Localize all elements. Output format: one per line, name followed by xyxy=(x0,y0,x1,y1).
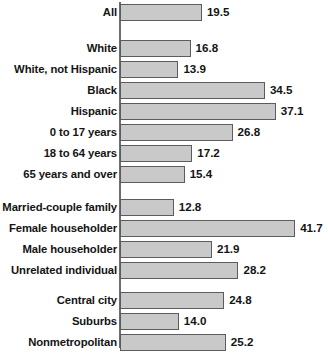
bar-value-label: 15.4 xyxy=(190,164,213,185)
bar-category-label: 0 to 17 years xyxy=(50,122,117,143)
bar-value-label: 14.0 xyxy=(184,311,207,332)
bar xyxy=(120,61,178,78)
bar-category-label: Black xyxy=(87,80,117,101)
bar-wrap xyxy=(120,61,178,78)
bar-value-label: 16.8 xyxy=(196,38,219,59)
bar-row: Nonmetropolitan25.2 xyxy=(0,332,328,353)
bar-category-label: White, not Hispanic xyxy=(14,59,117,80)
bar-row: Married-couple family12.8 xyxy=(0,197,328,218)
bar-category-label: Married-couple family xyxy=(2,197,117,218)
bar xyxy=(120,241,212,258)
bar-category-label: Hispanic xyxy=(71,101,117,122)
bar-value-label: 21.9 xyxy=(217,239,240,260)
bar-category-label: All xyxy=(103,2,117,23)
bar xyxy=(120,40,191,57)
bar-wrap xyxy=(120,292,224,309)
bar-group-total: All19.5 xyxy=(0,2,328,23)
bar xyxy=(120,145,192,162)
bar xyxy=(120,103,276,120)
bar-row: All19.5 xyxy=(0,2,328,23)
bar xyxy=(120,199,174,216)
bar-category-label: White xyxy=(87,38,117,59)
bar-value-label: 34.5 xyxy=(270,80,293,101)
bar-value-label: 28.2 xyxy=(243,260,266,281)
bar-value-label: 25.2 xyxy=(231,332,254,353)
bar-row: Unrelated individual28.2 xyxy=(0,260,328,281)
bar-wrap xyxy=(120,40,191,57)
bar-wrap xyxy=(120,220,295,237)
bar-row: Hispanic37.1 xyxy=(0,101,328,122)
bar-value-label: 13.9 xyxy=(183,59,206,80)
bar-row: Suburbs14.0 xyxy=(0,311,328,332)
bar xyxy=(120,82,265,99)
bar xyxy=(120,313,179,330)
bar xyxy=(120,262,238,279)
bar-group-age: 0 to 17 years26.818 to 64 years17.265 ye… xyxy=(0,122,328,185)
bar-value-label: 17.2 xyxy=(197,143,220,164)
bar xyxy=(120,4,202,21)
bar-category-label: Female householder xyxy=(9,218,117,239)
bar-row: Female householder41.7 xyxy=(0,218,328,239)
bar xyxy=(120,292,224,309)
bar-row: 65 years and over15.4 xyxy=(0,164,328,185)
bar-wrap xyxy=(120,145,192,162)
bar-group-residence: Central city24.8Suburbs14.0Nonmetropolit… xyxy=(0,290,328,353)
bar-wrap xyxy=(120,166,185,183)
bar-row: 18 to 64 years17.2 xyxy=(0,143,328,164)
bar-category-label: Suburbs xyxy=(72,311,117,332)
bar-wrap xyxy=(120,262,238,279)
bar-row: White16.8 xyxy=(0,38,328,59)
bar-wrap xyxy=(120,103,276,120)
bar-row: Central city24.8 xyxy=(0,290,328,311)
bar xyxy=(120,166,185,183)
bar xyxy=(120,334,226,351)
bar-value-label: 24.8 xyxy=(229,290,252,311)
bar-row: White, not Hispanic13.9 xyxy=(0,59,328,80)
bar-category-label: 65 years and over xyxy=(23,164,117,185)
bar-value-label: 12.8 xyxy=(179,197,202,218)
bar-wrap xyxy=(120,313,179,330)
bar-wrap xyxy=(120,4,202,21)
bar-row: 0 to 17 years26.8 xyxy=(0,122,328,143)
bar xyxy=(120,220,295,237)
bar-value-label: 19.5 xyxy=(207,2,230,23)
bar xyxy=(120,124,233,141)
bar-category-label: Male householder xyxy=(23,239,117,260)
bar-wrap xyxy=(120,334,226,351)
bar-category-label: Unrelated individual xyxy=(11,260,117,281)
bar-group-race-and-ethnicity: White16.8White, not Hispanic13.9Black34.… xyxy=(0,38,328,122)
bar-category-label: 18 to 64 years xyxy=(44,143,117,164)
bar-value-label: 37.1 xyxy=(281,101,304,122)
bar-value-label: 41.7 xyxy=(300,218,323,239)
bar-value-label: 26.8 xyxy=(238,122,261,143)
bar-row: Black34.5 xyxy=(0,80,328,101)
bar-category-label: Central city xyxy=(57,290,117,311)
bar-wrap xyxy=(120,124,233,141)
bar-category-label: Nonmetropolitan xyxy=(28,332,117,353)
bar-row: Male householder21.9 xyxy=(0,239,328,260)
bar-wrap xyxy=(120,241,212,258)
bar-group-household-type: Married-couple family12.8Female househol… xyxy=(0,197,328,281)
bar-wrap xyxy=(120,199,174,216)
bar-wrap xyxy=(120,82,265,99)
